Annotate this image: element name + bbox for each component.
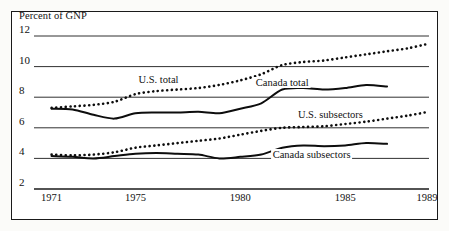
chart-frame: Percent of GNP 1210864219711975198019851… (11, 11, 438, 220)
y-axis-tick-label: 6 (19, 115, 37, 127)
plot-area: Percent of GNP 1210864219711975198019851… (12, 12, 439, 221)
y-axis-tick-label: 2 (19, 176, 37, 188)
x-axis-tick-label: 1989 (417, 192, 438, 203)
series-label-u-s-subsectors: U.S. subsectors (296, 109, 365, 120)
figure-container: Percent of GNP 1210864219711975198019851… (0, 0, 449, 231)
series-line (52, 44, 429, 108)
y-axis-tick-label: 10 (19, 54, 37, 66)
series-label-canada-total: Canada total (254, 77, 311, 88)
series-label-u-s-total: U.S. total (137, 74, 181, 85)
x-axis-tick-label: 1975 (125, 192, 146, 203)
y-axis-tick-label: 4 (19, 145, 37, 157)
x-axis-tick-label: 1980 (230, 192, 251, 203)
x-axis-tick-label: 1971 (41, 192, 62, 203)
chart-svg (12, 12, 439, 221)
x-axis-tick-label: 1985 (335, 192, 356, 203)
y-axis-tick-label: 12 (19, 23, 37, 35)
series-label-canada-subsectors: Canada subsectors (271, 149, 353, 160)
y-axis-tick-label: 8 (19, 84, 37, 96)
